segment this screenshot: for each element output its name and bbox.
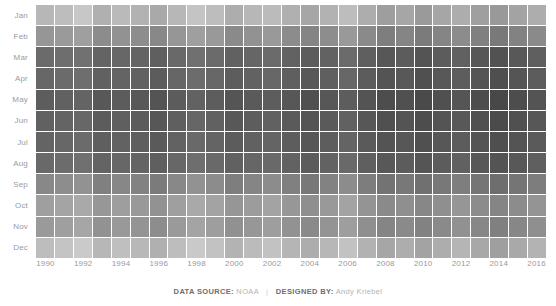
heatmap-cell[interactable] [358, 195, 376, 215]
heatmap-cell[interactable] [339, 68, 357, 88]
heatmap-cell[interactable] [74, 195, 92, 215]
heatmap-cell[interactable] [55, 238, 73, 258]
heatmap-cell[interactable] [112, 47, 130, 67]
heatmap-cell[interactable] [263, 26, 281, 46]
heatmap-cell[interactable] [528, 217, 546, 237]
heatmap-cell[interactable] [339, 47, 357, 67]
heatmap-cell[interactable] [225, 153, 243, 173]
heatmap-cell[interactable] [168, 238, 186, 258]
heatmap-cell[interactable] [377, 195, 395, 215]
heatmap-cell[interactable] [93, 174, 111, 194]
heatmap-cell[interactable] [131, 47, 149, 67]
heatmap-cell[interactable] [263, 132, 281, 152]
heatmap-cell[interactable] [471, 238, 489, 258]
heatmap-cell[interactable] [36, 90, 54, 110]
heatmap-cell[interactable] [358, 238, 376, 258]
heatmap-cell[interactable] [509, 238, 527, 258]
heatmap-cell[interactable] [433, 68, 451, 88]
heatmap-cell[interactable] [433, 5, 451, 25]
heatmap-cell[interactable] [187, 47, 205, 67]
heatmap-cell[interactable] [320, 174, 338, 194]
heatmap-cell[interactable] [452, 217, 470, 237]
heatmap-cell[interactable] [320, 26, 338, 46]
heatmap-cell[interactable] [452, 111, 470, 131]
heatmap-cell[interactable] [377, 68, 395, 88]
heatmap-cell[interactable] [263, 111, 281, 131]
heatmap-cell[interactable] [509, 5, 527, 25]
heatmap-cell[interactable] [396, 111, 414, 131]
heatmap-cell[interactable] [187, 132, 205, 152]
heatmap-cell[interactable] [396, 90, 414, 110]
heatmap-cell[interactable] [168, 132, 186, 152]
heatmap-cell[interactable] [206, 195, 224, 215]
heatmap-cell[interactable] [301, 47, 319, 67]
heatmap-cell[interactable] [415, 26, 433, 46]
heatmap-cell[interactable] [396, 195, 414, 215]
heatmap-cell[interactable] [301, 238, 319, 258]
heatmap-cell[interactable] [396, 47, 414, 67]
heatmap-cell[interactable] [509, 174, 527, 194]
heatmap-cell[interactable] [433, 238, 451, 258]
heatmap-cell[interactable] [131, 217, 149, 237]
heatmap-cell[interactable] [112, 26, 130, 46]
heatmap-cell[interactable] [509, 111, 527, 131]
heatmap-cell[interactable] [490, 153, 508, 173]
heatmap-cell[interactable] [206, 132, 224, 152]
heatmap-cell[interactable] [433, 111, 451, 131]
heatmap-cell[interactable] [282, 238, 300, 258]
heatmap-cell[interactable] [471, 5, 489, 25]
heatmap-cell[interactable] [471, 26, 489, 46]
heatmap-cell[interactable] [377, 26, 395, 46]
heatmap-cell[interactable] [93, 111, 111, 131]
heatmap-cell[interactable] [301, 90, 319, 110]
heatmap-cell[interactable] [320, 132, 338, 152]
heatmap-cell[interactable] [282, 174, 300, 194]
heatmap-cell[interactable] [112, 90, 130, 110]
heatmap-cell[interactable] [36, 238, 54, 258]
heatmap-cell[interactable] [528, 238, 546, 258]
heatmap-cell[interactable] [452, 90, 470, 110]
heatmap-cell[interactable] [206, 238, 224, 258]
heatmap-cell[interactable] [358, 68, 376, 88]
heatmap-cell[interactable] [244, 68, 262, 88]
heatmap-cell[interactable] [415, 68, 433, 88]
heatmap-cell[interactable] [528, 111, 546, 131]
heatmap-cell[interactable] [244, 47, 262, 67]
heatmap-cell[interactable] [74, 26, 92, 46]
heatmap-cell[interactable] [93, 153, 111, 173]
heatmap-cell[interactable] [206, 153, 224, 173]
heatmap-cell[interactable] [225, 217, 243, 237]
heatmap-cell[interactable] [74, 174, 92, 194]
heatmap-cell[interactable] [206, 68, 224, 88]
heatmap-cell[interactable] [225, 26, 243, 46]
heatmap-cell[interactable] [339, 195, 357, 215]
heatmap-cell[interactable] [339, 153, 357, 173]
heatmap-cell[interactable] [206, 5, 224, 25]
heatmap-cell[interactable] [36, 111, 54, 131]
heatmap-cell[interactable] [244, 111, 262, 131]
heatmap-cell[interactable] [433, 174, 451, 194]
heatmap-cell[interactable] [263, 68, 281, 88]
heatmap-cell[interactable] [415, 132, 433, 152]
heatmap-cell[interactable] [225, 111, 243, 131]
heatmap-cell[interactable] [168, 195, 186, 215]
heatmap-cell[interactable] [225, 195, 243, 215]
heatmap-cell[interactable] [282, 90, 300, 110]
heatmap-cell[interactable] [396, 5, 414, 25]
heatmap-cell[interactable] [263, 5, 281, 25]
heatmap-cell[interactable] [112, 174, 130, 194]
heatmap-cell[interactable] [74, 5, 92, 25]
heatmap-cell[interactable] [282, 132, 300, 152]
heatmap-cell[interactable] [339, 132, 357, 152]
heatmap-cell[interactable] [55, 26, 73, 46]
heatmap-cell[interactable] [93, 68, 111, 88]
heatmap-cell[interactable] [490, 217, 508, 237]
heatmap-cell[interactable] [55, 68, 73, 88]
heatmap-cell[interactable] [509, 153, 527, 173]
heatmap-cell[interactable] [225, 132, 243, 152]
heatmap-cell[interactable] [358, 132, 376, 152]
heatmap-cell[interactable] [282, 68, 300, 88]
heatmap-cell[interactable] [93, 238, 111, 258]
heatmap-cell[interactable] [168, 26, 186, 46]
heatmap-cell[interactable] [452, 174, 470, 194]
